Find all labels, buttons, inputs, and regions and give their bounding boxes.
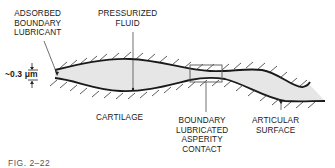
label-line: SURFACE bbox=[252, 126, 299, 136]
label-pressurized-fluid: PRESSURIZED FLUID bbox=[98, 9, 157, 28]
leader-articular-tick bbox=[279, 101, 283, 104]
label-line: PRESSURIZED bbox=[98, 9, 157, 19]
label-adsorbed-boundary-lubricant: ADSORBED BOUNDARY LUBRICANT bbox=[14, 9, 61, 38]
label-line: BOUNDARY bbox=[176, 116, 228, 126]
label-line: ARTICULAR bbox=[252, 116, 299, 126]
label-boundary-lubricated-asperity-contact: BOUNDARY LUBRICATED ASPERITY CONTACT bbox=[176, 116, 228, 154]
label-articular-surface: ARTICULAR SURFACE bbox=[252, 116, 299, 135]
label-line: ADSORBED bbox=[14, 9, 61, 19]
label-line: ASPERITY bbox=[176, 135, 228, 145]
label-line: LUBRICANT bbox=[14, 28, 61, 38]
pressurized-fluid-dot bbox=[132, 88, 134, 90]
label-cartilage: CARTILAGE bbox=[96, 113, 143, 123]
label-line: FLUID bbox=[98, 19, 157, 29]
thickness-arrow-up bbox=[30, 81, 34, 84]
label-line: CONTACT bbox=[176, 145, 228, 155]
leader-adsorbed bbox=[44, 41, 57, 74]
label-line: BOUNDARY bbox=[14, 19, 61, 29]
label-thickness: ~0.3 μm bbox=[5, 70, 38, 80]
figure-caption: FIG. 2–22 bbox=[8, 158, 50, 168]
label-line: LUBRICATED bbox=[176, 126, 228, 136]
